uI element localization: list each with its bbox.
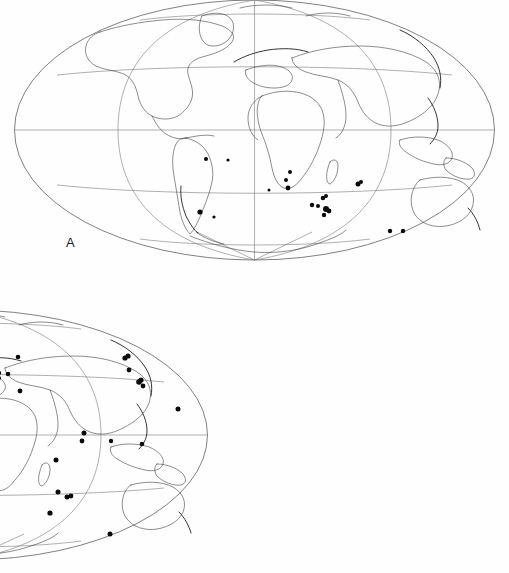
coastline-india [336, 80, 346, 138]
coastline-siberia-north [306, 13, 350, 16]
occurrence-dot [127, 368, 132, 373]
coastline-australia [411, 177, 473, 226]
occurrence-dot [125, 353, 130, 358]
occurrence-dot [212, 215, 215, 218]
coastline-new-guinea [155, 464, 186, 485]
occurrence-dot [140, 442, 145, 447]
coastline-south-america [173, 138, 213, 234]
coastline-scandinavia [0, 358, 21, 371]
coastline-indonesia [399, 137, 452, 165]
coastline-africa [257, 91, 324, 188]
coastline-new-zealand [468, 208, 480, 230]
occurrence-dot [268, 189, 271, 192]
occurrence-dot [288, 170, 292, 174]
map-panel-b: B [0, 287, 509, 573]
coastline-africa [0, 398, 37, 490]
coastline-asia [292, 46, 440, 126]
coastline-arctic-north [0, 314, 5, 317]
coastline-australia [122, 482, 184, 529]
coastlines-group [85, 5, 480, 253]
occurrence-dot [226, 158, 229, 161]
graticule-group [15, 0, 495, 260]
coastline-kamchatka [111, 340, 152, 396]
occurrence-dot [388, 229, 392, 233]
coastline-madagascar [327, 160, 338, 184]
occurrence-dot [204, 157, 208, 161]
coastline-gulf-mexico [152, 116, 186, 139]
panel-label-a: A [66, 236, 75, 249]
coastline-antarctica [0, 533, 58, 555]
coastline-arctic-north [240, 5, 292, 8]
coastline-japan [428, 98, 438, 144]
occurrence-dot [80, 439, 85, 444]
coastline-scandinavia [234, 49, 308, 62]
coastline-europe [245, 65, 292, 88]
occurrence-dot [197, 209, 202, 214]
occurrence-dot [327, 209, 332, 214]
graticule-antarctic-wedge [0, 534, 24, 560]
graticule-lat-30s [0, 488, 164, 496]
coastline-caribbean [186, 135, 214, 138]
map-svg-a [0, 0, 509, 287]
coastline-new-zealand [179, 512, 191, 533]
occurrence-dot [316, 204, 320, 208]
coastline-new-guinea [444, 158, 475, 179]
occurrence-dot [6, 372, 11, 377]
graticule-lat-60n [0, 323, 81, 329]
graticule-lat-60s [140, 239, 370, 245]
occurrence-dot [18, 389, 23, 394]
occurrence-dot [47, 510, 52, 515]
occurrence-dot [56, 490, 61, 495]
occurrence-dot [82, 431, 87, 436]
figure-container: A [0, 0, 509, 573]
occurrence-dot [138, 377, 143, 382]
map-panel-a: A [0, 0, 509, 287]
coastlines-group [0, 314, 191, 555]
coastline-siberia-north [19, 322, 63, 325]
graticule-lat-60s [0, 541, 81, 547]
occurrence-dot [69, 494, 74, 499]
occurrence-dot [108, 532, 113, 537]
occurrence-dot [54, 458, 59, 463]
occurrence-dot [16, 355, 21, 360]
coastline-madagascar [39, 463, 50, 486]
occurrence-dot [401, 229, 405, 233]
occurrence-dot [322, 213, 326, 217]
coastline-north-america [85, 19, 233, 119]
occurrence-dot [359, 180, 363, 184]
occurrence-dot [310, 203, 314, 207]
occurrence-dot [141, 384, 146, 389]
coastline-indonesia [110, 444, 163, 471]
occurrence-dot [324, 194, 328, 198]
coastline-india [48, 390, 58, 446]
occurrence-dot [109, 439, 113, 443]
map-svg-b [0, 287, 509, 573]
occurrence-dot [286, 186, 291, 191]
occurrence-dot [176, 407, 181, 412]
coastline-west-africa [248, 96, 262, 140]
graticule-group [0, 310, 208, 560]
dot-layer-a [197, 157, 405, 233]
occurrence-dot [284, 178, 288, 182]
